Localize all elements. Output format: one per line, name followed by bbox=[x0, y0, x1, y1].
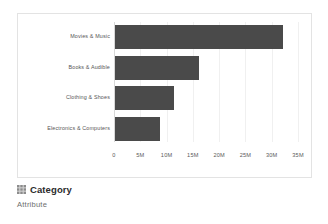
x-tick-label: 35M bbox=[292, 153, 303, 159]
grid-icon bbox=[17, 185, 26, 194]
category-label: Clothing & Shoes bbox=[66, 95, 110, 100]
caption-subtitle: Attribute bbox=[17, 201, 312, 209]
x-tick-label: 0 bbox=[112, 153, 115, 159]
category-label: Movies & Music bbox=[70, 34, 110, 39]
chart-panel: Movies & MusicBooks & AudibleClothing & … bbox=[17, 13, 312, 178]
gridline bbox=[298, 22, 299, 142]
bar bbox=[115, 56, 199, 80]
caption-block: Category Attribute bbox=[17, 185, 312, 208]
x-tick-label: 5M bbox=[136, 153, 144, 159]
bar-chart-plot-area: Movies & MusicBooks & AudibleClothing & … bbox=[18, 14, 311, 177]
x-tick-label: 15M bbox=[187, 153, 198, 159]
x-tick-label: 25M bbox=[240, 153, 251, 159]
x-tick-label: 10M bbox=[161, 153, 172, 159]
caption-title: Category bbox=[30, 185, 72, 195]
category-label: Electronics & Computers bbox=[47, 126, 110, 131]
bar bbox=[115, 25, 283, 49]
x-tick-label: 20M bbox=[213, 153, 224, 159]
bar bbox=[115, 86, 174, 110]
caption-title-row: Category bbox=[17, 185, 312, 195]
category-label: Books & Audible bbox=[68, 65, 110, 70]
x-tick-label: 30M bbox=[266, 153, 277, 159]
bar bbox=[115, 117, 160, 141]
